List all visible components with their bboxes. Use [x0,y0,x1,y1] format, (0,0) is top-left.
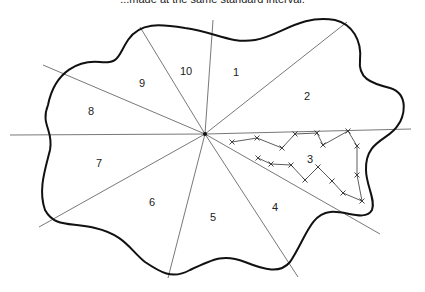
sector-label-2: 2 [304,90,310,102]
sector-ray [140,27,205,134]
sector-label-4: 4 [272,201,278,213]
sector-ray [205,134,380,234]
sector-ray [10,134,205,135]
x-marker-icon [280,146,285,151]
x-marker-icon [341,191,346,196]
sector-label-6: 6 [149,196,155,208]
x-marker-icon [316,165,321,170]
sector-labels: 12345678910 [88,65,313,223]
sector-label-8: 8 [88,105,94,117]
x-marker-icon [330,179,335,184]
x-marker-icon [346,129,351,134]
sample-traverse-path [232,131,362,201]
sample-point-markers [230,129,365,204]
sector-ray [168,134,205,278]
x-marker-icon [321,143,326,148]
x-marker-icon [303,178,308,183]
sector-label-9: 9 [139,77,145,89]
sector-label-1: 1 [233,66,239,78]
sector-label-7: 7 [96,157,102,169]
sector-rays [10,20,411,278]
sector-sampling-diagram: 12345678910 [0,0,425,292]
x-marker-icon [256,156,261,161]
sector-ray [39,134,205,227]
sector-label-3: 3 [307,153,313,165]
sector-label-10: 10 [180,65,192,77]
sector-ray [205,20,213,134]
sector-label-5: 5 [210,211,216,223]
sector-ray [205,134,298,277]
center-point [203,132,207,136]
field-outline [42,19,404,275]
